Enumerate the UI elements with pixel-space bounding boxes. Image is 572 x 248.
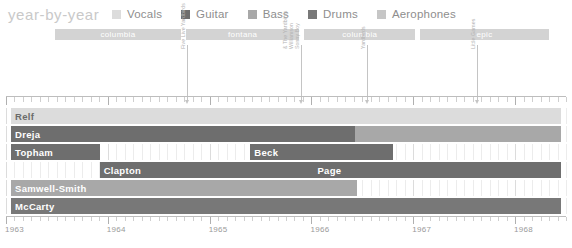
chart-gridline <box>193 144 194 160</box>
axis-tick-minor <box>337 217 338 221</box>
chart-gridline <box>6 198 7 214</box>
chart-bar-page[interactable] <box>313 162 560 178</box>
chart-bar-topham[interactable] <box>11 144 100 160</box>
axis-tick-minor <box>294 97 295 102</box>
chart-gridline <box>566 144 567 160</box>
axis-tick-minor <box>176 217 177 221</box>
chart-gridline <box>566 180 567 196</box>
chart-gridline <box>227 144 228 160</box>
chart-gridline <box>541 144 542 160</box>
axis-tick-minor <box>507 97 508 102</box>
axis-tick-minor <box>558 217 559 221</box>
axis-tick-minor <box>261 217 262 221</box>
chart-gridline <box>549 180 550 196</box>
page-title: year-by-year <box>8 6 99 23</box>
chart-gridline <box>133 144 134 160</box>
chart-gridline <box>40 162 41 178</box>
axis-tick-minor <box>278 217 279 221</box>
chart-row: McCarty <box>6 198 566 214</box>
chart-bar-dreja-guitar[interactable] <box>11 126 355 142</box>
chart-gridline <box>464 144 465 160</box>
chart-gridline <box>176 144 177 160</box>
axis-tick-minor <box>218 217 219 221</box>
axis-tick-minor <box>167 97 168 102</box>
chart-bar-dreja-bass[interactable] <box>355 126 561 142</box>
chart-gridline <box>422 144 423 160</box>
axis-tick-minor <box>498 217 499 221</box>
axis-tick-major <box>413 97 414 105</box>
chart-bar-samwell-smith[interactable] <box>11 180 357 196</box>
axis-tick-minor <box>490 97 491 102</box>
axis-tick-minor <box>227 97 228 102</box>
chart-gridline <box>447 180 448 196</box>
chart-gridline <box>549 144 550 160</box>
axis-tick-minor <box>150 97 151 102</box>
chart-gridline <box>507 144 508 160</box>
legend-item-drums[interactable]: Drums <box>308 8 358 20</box>
chart-gridline <box>405 180 406 196</box>
axis-tick-major <box>311 97 312 105</box>
chart-bar-clapton[interactable] <box>100 162 314 178</box>
legend-item-vocals[interactable]: Vocals <box>112 8 162 20</box>
axis-tick-minor <box>65 97 66 102</box>
axis-tick-minor <box>388 97 389 102</box>
axis-tick-minor <box>371 217 372 221</box>
axis-tick-minor <box>57 217 58 221</box>
chart-row: Samwell-Smith <box>6 180 566 196</box>
axis-tick-minor <box>566 97 567 102</box>
axis-tick-minor <box>31 217 32 221</box>
axis-tick-minor <box>473 217 474 221</box>
chart-legend: VocalsGuitarBassDrumsAerophones <box>112 7 475 21</box>
axis-tick-minor <box>320 97 321 102</box>
axis-tick-minor <box>320 217 321 221</box>
axis-tick-minor <box>125 97 126 102</box>
axis-tick-minor <box>481 97 482 102</box>
axis-tick-minor <box>40 217 41 221</box>
chart-gridline <box>65 162 66 178</box>
axis-tick-minor <box>337 97 338 102</box>
record-label-epic[interactable]: epic <box>420 29 548 40</box>
record-label-columbia[interactable]: columbia <box>55 29 181 40</box>
axis-tick-minor <box>23 217 24 221</box>
axis-tick-minor <box>269 217 270 221</box>
chart-gridline <box>150 144 151 160</box>
axis-tick-minor <box>159 97 160 102</box>
axis-tick-minor <box>201 217 202 221</box>
legend-item-guitar[interactable]: Guitar <box>181 8 229 20</box>
chart-gridline <box>6 180 7 196</box>
chart-gridline <box>430 180 431 196</box>
chart-bar-relf[interactable] <box>11 108 561 124</box>
chart-bar-beck[interactable] <box>250 144 393 160</box>
axis-tick-major <box>108 97 109 105</box>
legend-swatch-icon <box>248 10 257 19</box>
legend-item-aerophones[interactable]: Aerophones <box>377 8 456 20</box>
annotation-stem <box>367 45 368 100</box>
album-annotation-label: Five Live Yardbirds <box>180 3 186 49</box>
axis-tick-minor <box>422 97 423 102</box>
chart-gridline <box>6 108 7 124</box>
axis-tick-minor <box>235 217 236 221</box>
axis-tick-minor <box>328 217 329 221</box>
axis-tick-major <box>515 217 516 224</box>
axis-tick-minor <box>405 217 406 221</box>
axis-tick-minor <box>235 97 236 102</box>
axis-tick-major <box>413 217 414 224</box>
axis-tick-major <box>515 97 516 105</box>
axis-tick-minor <box>65 217 66 221</box>
chart-gridline <box>244 144 245 160</box>
top-axis <box>6 96 566 106</box>
axis-tick-minor <box>379 217 380 221</box>
axis-tick-major <box>311 217 312 224</box>
chart-gridline <box>82 162 83 178</box>
axis-tick-minor <box>218 97 219 102</box>
axis-tick-minor <box>227 217 228 221</box>
axis-tick-minor <box>91 217 92 221</box>
chart-gridline <box>566 108 567 124</box>
chart-gridline <box>532 180 533 196</box>
axis-tick-minor <box>456 217 457 221</box>
chart-bar-mccarty[interactable] <box>11 198 561 214</box>
chart-row: ClaptonPage <box>6 162 566 178</box>
chart-gridline <box>532 144 533 160</box>
chart-gridline <box>422 180 423 196</box>
axis-tick-minor <box>57 97 58 102</box>
